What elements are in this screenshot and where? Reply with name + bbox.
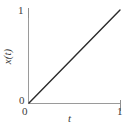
y-axis-title: x(t) [2,40,13,74]
ramp-function-plot: 1 0 0 1 t x(t) [0,0,129,127]
x-axis-title: t [68,113,71,124]
data-series-line [0,0,129,127]
x-axis-tick-label-max: 1 [117,106,123,117]
x-axis-tick-label-min: 0 [22,106,28,117]
x-axis-line [28,103,121,104]
y-axis-line [28,10,29,104]
y-axis-tick-label-max: 1 [18,5,24,16]
y-axis-tick-max [28,8,29,18]
